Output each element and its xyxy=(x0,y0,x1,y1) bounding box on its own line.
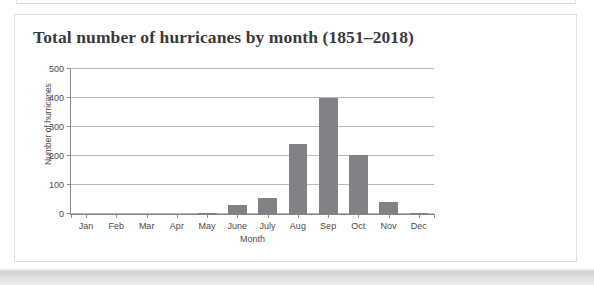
bar-slot: Aug xyxy=(283,69,313,214)
bar-slot: Mar xyxy=(132,69,162,214)
bar-slot: Jan xyxy=(71,69,101,214)
bar-july[interactable] xyxy=(258,198,277,214)
x-tick-mark xyxy=(419,214,420,218)
x-tick-mark xyxy=(147,214,148,218)
x-tick-mark xyxy=(268,214,269,218)
x-tick-label-feb: Feb xyxy=(109,221,125,231)
x-tick-mark xyxy=(177,214,178,218)
y-tick-label: 100 xyxy=(49,180,64,190)
x-axis-line xyxy=(70,214,434,215)
x-tick-mark xyxy=(86,214,87,218)
x-tick-mark xyxy=(237,214,238,218)
x-tick-label-june: June xyxy=(228,221,248,231)
bar-nov[interactable] xyxy=(379,202,398,214)
x-tick-label-sep: Sep xyxy=(320,221,336,231)
x-tick-label-july: July xyxy=(260,221,276,231)
x-tick-label-may: May xyxy=(199,221,216,231)
x-axis-title: Month xyxy=(71,234,434,244)
x-tick-mark-end xyxy=(434,214,435,218)
x-tick-mark xyxy=(298,214,299,218)
bar-slot: July xyxy=(253,69,283,214)
x-tick-label-jan: Jan xyxy=(79,221,94,231)
bar-slot: Apr xyxy=(162,69,192,214)
bar-slot: Sep xyxy=(313,69,343,214)
bar-slot: May xyxy=(192,69,222,214)
y-tick-label: 500 xyxy=(49,64,64,74)
bar-sep[interactable] xyxy=(319,98,338,214)
bars-group: JanFebMarAprMayJuneJulyAugSepOctNovDec xyxy=(71,69,434,214)
y-tick-label: 300 xyxy=(49,122,64,132)
bar-slot: Dec xyxy=(404,69,434,214)
bar-slot: Oct xyxy=(343,69,373,214)
chart-plot-wrapper: Number of hurricanes 0100200300400500 Ja… xyxy=(15,15,578,263)
page-bottom-band xyxy=(0,268,594,285)
bar-slot: Feb xyxy=(101,69,131,214)
plot-area: 0100200300400500 JanFebMarAprMayJuneJuly… xyxy=(71,69,434,214)
x-tick-label-apr: Apr xyxy=(170,221,184,231)
bar-slot: Nov xyxy=(374,69,404,214)
y-tick-label: 400 xyxy=(49,93,64,103)
bar-slot: June xyxy=(222,69,252,214)
x-tick-mark xyxy=(389,214,390,218)
x-tick-mark xyxy=(358,214,359,218)
top-divider-rule xyxy=(16,0,576,4)
x-tick-mark-origin xyxy=(71,214,72,218)
x-tick-label-oct: Oct xyxy=(351,221,365,231)
y-tick-label: 0 xyxy=(59,209,64,219)
x-tick-label-dec: Dec xyxy=(411,221,427,231)
x-tick-mark xyxy=(116,214,117,218)
x-tick-label-nov: Nov xyxy=(381,221,397,231)
bar-june[interactable] xyxy=(228,205,247,214)
bar-aug[interactable] xyxy=(289,144,308,214)
bar-oct[interactable] xyxy=(349,155,368,214)
x-tick-label-aug: Aug xyxy=(290,221,306,231)
chart-panel: Total number of hurricanes by month (185… xyxy=(14,14,577,262)
x-tick-mark xyxy=(207,214,208,218)
x-tick-mark xyxy=(328,214,329,218)
y-tick-label: 200 xyxy=(49,151,64,161)
x-tick-label-mar: Mar xyxy=(139,221,155,231)
